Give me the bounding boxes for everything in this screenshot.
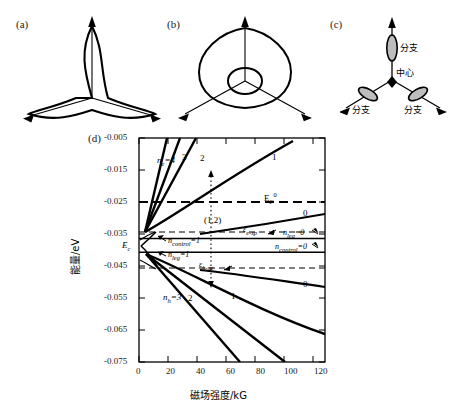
annotation-state-1-2: (1,2): [204, 215, 221, 225]
annotation-ncontrol-1: ncontrol=1: [168, 236, 200, 247]
leader-arrowhead-eps-e-sp: [268, 230, 274, 236]
annotation-eps-h-sp: εh-sp: [199, 260, 213, 271]
annotation-nh-2: 2: [188, 293, 193, 303]
vertical-marker-arrow-up: [208, 170, 214, 177]
annotation-ne-4: ne=4: [157, 155, 175, 167]
annotation-nh-1: 1: [231, 291, 236, 301]
annotation-nleg-0: nleg=0: [283, 228, 304, 239]
plot-canvas: [0, 0, 455, 408]
annotation-eps-e-sp: εe-sp: [243, 225, 257, 236]
annotation-Ec: Ec: [122, 240, 130, 252]
series-nh-2: [146, 254, 285, 362]
annotation-nh-0: 0: [303, 279, 308, 289]
annotation-nleg-1: nleg=1: [168, 250, 189, 261]
annotation-nh-3: nh=3: [163, 292, 181, 304]
annotation-ne-1: 1: [272, 152, 277, 162]
annotation-ne-3: 3: [182, 152, 187, 162]
annotation-ncontrol-0: ncontrol=0: [275, 242, 307, 253]
figure-root: (a) (b) (c): [0, 0, 455, 408]
annotation-EF0: EF0: [264, 191, 277, 205]
annotation-ne-0: 0: [303, 208, 308, 218]
annotation-ne-2: 2: [200, 153, 205, 163]
